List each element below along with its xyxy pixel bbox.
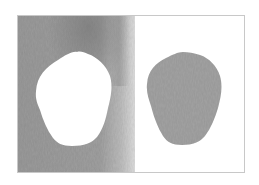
textured-panel (18, 16, 135, 172)
extracted-piece (147, 52, 222, 145)
diagram-canvas (0, 0, 259, 185)
